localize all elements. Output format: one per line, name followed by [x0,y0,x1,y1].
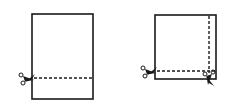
paper-sheet [155,15,216,79]
panel-double-cut [141,15,216,86]
panel-single-cut [19,14,93,99]
paper-cutting-diagram [0,0,230,107]
paper-sheet [32,14,93,99]
